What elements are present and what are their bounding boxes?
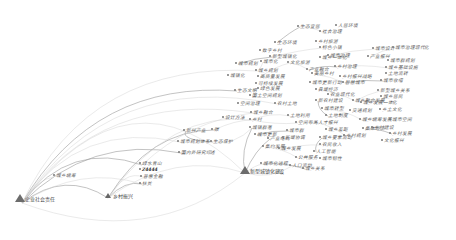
keyword-node-marker[interactable] [372, 47, 374, 49]
keyword-node-marker[interactable] [255, 69, 257, 71]
keyword-node-label: 交通规划 [352, 108, 372, 113]
keyword-node-marker[interactable] [282, 136, 284, 138]
keyword-node-label: 乡村 [252, 117, 262, 122]
keyword-node-marker[interactable] [385, 66, 387, 68]
keyword-node-marker[interactable] [379, 108, 381, 110]
keyword-node-marker[interactable] [286, 129, 288, 131]
keyword-node-marker[interactable] [360, 101, 362, 103]
keyword-node-marker[interactable] [342, 81, 344, 83]
keyword-node-marker[interactable] [257, 87, 259, 89]
keyword-node-marker[interactable] [387, 59, 389, 61]
keyword-node-marker[interactable] [295, 156, 297, 158]
keyword-node-marker[interactable] [349, 109, 351, 111]
keyword-node-marker[interactable] [315, 121, 317, 123]
keyword-node-marker[interactable] [319, 143, 321, 145]
keyword-node-marker[interactable] [227, 74, 229, 76]
hub-node-label: 新型城镇化建设 [250, 169, 284, 174]
keyword-node-marker[interactable] [254, 133, 256, 135]
keyword-node-marker[interactable] [211, 128, 213, 130]
keyword-node-label: 生态保护 [213, 139, 233, 144]
keyword-node-marker[interactable] [178, 151, 180, 153]
keyword-node-marker[interactable] [274, 102, 276, 104]
keyword-node-marker[interactable] [210, 140, 212, 142]
keyword-node-marker[interactable] [289, 164, 291, 166]
keyword-node-marker[interactable] [381, 139, 383, 141]
keyword-node-marker[interactable] [306, 68, 308, 70]
keyword-node-marker[interactable] [222, 116, 224, 118]
keyword-node-marker[interactable] [313, 150, 315, 152]
keyword-node-label: 新兴产业 [186, 128, 206, 133]
keyword-node-marker[interactable] [297, 25, 299, 27]
keyword-node-marker[interactable] [392, 46, 394, 48]
network-link [108, 119, 252, 198]
keyword-node-marker[interactable] [235, 62, 237, 64]
keyword-node-marker[interactable] [319, 56, 321, 58]
keyword-node-marker[interactable] [278, 147, 280, 149]
keyword-node-marker[interactable] [262, 145, 264, 147]
keyword-node-marker[interactable] [287, 114, 289, 116]
keyword-node-marker[interactable] [177, 140, 179, 142]
keyword-node-marker[interactable] [249, 126, 251, 128]
hub-node-marker[interactable] [105, 193, 111, 198]
keyword-node-marker[interactable] [53, 174, 55, 176]
hub-node-marker[interactable] [240, 166, 250, 174]
keyword-node-marker[interactable] [325, 114, 327, 116]
keyword-node-marker[interactable] [237, 102, 239, 104]
keyword-node-marker[interactable] [234, 89, 236, 91]
keyword-node-marker[interactable] [269, 55, 271, 57]
keyword-node-marker[interactable] [389, 132, 391, 134]
keyword-node-marker[interactable] [343, 134, 345, 136]
keyword-node-marker[interactable] [327, 93, 329, 95]
keyword-node-label: 碳 [214, 127, 219, 132]
keyword-node-marker[interactable] [287, 61, 289, 63]
keyword-node-marker[interactable] [250, 111, 252, 113]
keyword-node-marker[interactable] [260, 162, 262, 164]
keyword-node-marker[interactable] [257, 75, 259, 77]
keyword-node-label: 社会治理 [322, 29, 342, 34]
keyword-node-marker[interactable] [259, 49, 261, 51]
keyword-node-marker[interactable] [260, 60, 262, 62]
keyword-node-marker[interactable] [359, 118, 361, 120]
keyword-node-marker[interactable] [315, 40, 317, 42]
keyword-node-marker[interactable] [321, 107, 323, 109]
keyword-node-marker[interactable] [319, 157, 321, 159]
keyword-node-marker[interactable] [302, 167, 304, 169]
keyword-node-marker[interactable] [319, 30, 321, 32]
keyword-node-marker[interactable] [385, 72, 387, 74]
keyword-node-marker[interactable] [352, 99, 354, 101]
keyword-node-marker[interactable] [334, 65, 336, 67]
keyword-node-marker[interactable] [295, 121, 297, 123]
keyword-node-label: 城市治理现代化 [395, 45, 429, 50]
keyword-node-marker[interactable] [139, 162, 141, 164]
keyword-node-marker[interactable] [139, 168, 141, 170]
keyword-node-marker[interactable] [309, 81, 311, 83]
hub-node-marker[interactable] [15, 194, 25, 202]
keyword-node-label: 空间治理 [240, 101, 260, 106]
keyword-node-marker[interactable] [315, 99, 317, 101]
keyword-node-marker[interactable] [362, 127, 364, 129]
keyword-node-marker[interactable] [249, 118, 251, 120]
keyword-node-label: 城市化 [263, 59, 278, 64]
keyword-node-marker[interactable] [249, 94, 251, 96]
keyword-node-marker[interactable] [367, 55, 369, 57]
keyword-node-marker[interactable] [267, 137, 269, 139]
keyword-node-marker[interactable] [255, 82, 257, 84]
keyword-node-marker[interactable] [325, 128, 327, 130]
keyword-node-marker[interactable] [183, 129, 185, 131]
keyword-node-marker[interactable] [311, 72, 313, 74]
keyword-node-marker[interactable] [380, 79, 382, 81]
keyword-node-marker[interactable] [139, 182, 141, 184]
keyword-node-label: 绿色发展 [260, 86, 280, 91]
keyword-node-label: 城市空间 [392, 117, 412, 122]
keyword-node-marker[interactable] [389, 118, 391, 120]
keyword-node-marker[interactable] [319, 46, 321, 48]
keyword-node-marker[interactable] [335, 24, 337, 26]
keyword-node-marker[interactable] [339, 75, 341, 77]
keyword-node-marker[interactable] [380, 95, 382, 97]
keyword-node-marker[interactable] [319, 136, 321, 138]
keyword-node-marker[interactable] [274, 41, 276, 43]
keyword-node-marker[interactable] [371, 126, 373, 128]
keyword-node-marker[interactable] [315, 88, 317, 90]
keyword-node-marker[interactable] [140, 175, 142, 177]
keyword-node-marker[interactable] [377, 89, 379, 91]
